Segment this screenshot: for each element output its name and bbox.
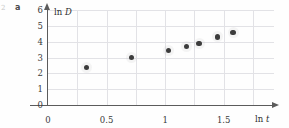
gridline-horizontal	[48, 73, 274, 74]
data-point	[196, 41, 201, 46]
x-tick: 0	[33, 108, 63, 127]
gridline-horizontal	[48, 10, 274, 11]
x-tick-label: 1.5	[217, 115, 231, 125]
y-tick-label: 1	[38, 85, 43, 94]
x-axis-title-ln: ln	[255, 114, 266, 124]
panel-label-a: a	[15, 4, 20, 12]
y-tick-label: 6	[38, 6, 43, 15]
y-axis-title-var: D	[65, 7, 72, 17]
x-tick: 1.5	[209, 108, 239, 127]
page-edge-mark: 2	[1, 5, 5, 12]
data-point	[215, 34, 220, 39]
x-axis-arrow-icon	[272, 102, 279, 108]
data-point	[184, 44, 189, 49]
y-axis-title: ln D	[54, 8, 72, 17]
gridline-horizontal	[48, 26, 274, 27]
gridline-horizontal	[48, 89, 274, 90]
y-axis-title-ln: ln	[54, 7, 65, 17]
x-tick-label: 0.5	[100, 115, 114, 125]
y-axis-arrow-icon	[44, 3, 50, 10]
x-axis-title: ln t	[255, 115, 269, 124]
x-axis-title-var: t	[266, 114, 269, 124]
y-tick-label: 4	[38, 38, 43, 47]
y-tick-label: 5	[38, 22, 43, 31]
data-point	[230, 30, 235, 35]
y-axis-line	[47, 9, 48, 106]
data-point	[129, 55, 134, 60]
x-tick-label: 1	[162, 115, 167, 125]
gridline-horizontal	[48, 42, 274, 43]
x-tick-label: 0	[45, 115, 50, 125]
y-tick-label: 2	[38, 69, 43, 78]
y-tick-label: 3	[38, 54, 43, 63]
x-axis-line	[30, 105, 274, 106]
x-tick: 1	[150, 108, 180, 127]
gridline-horizontal	[48, 58, 274, 59]
x-tick: 0.5	[92, 108, 122, 127]
plot-area	[48, 10, 274, 105]
scatter-plot-figure: 2 a 0123456 00.511.5 ln D ln t	[0, 0, 289, 128]
